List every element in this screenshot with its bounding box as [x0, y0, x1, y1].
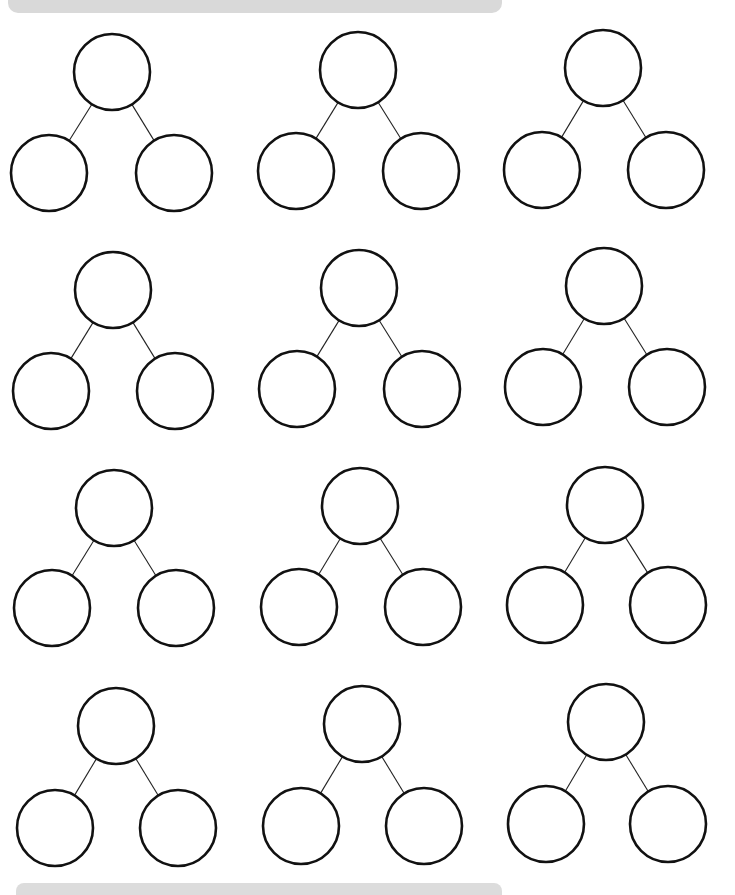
number-bond-diagram [261, 468, 461, 645]
whole-circle[interactable] [78, 688, 154, 764]
connector-line-left [317, 320, 339, 356]
number-bond-diagram [11, 34, 212, 211]
number-bond-diagram [259, 250, 460, 427]
part-circle-right[interactable] [629, 349, 705, 425]
connector-line-right [626, 754, 649, 791]
part-circle-left[interactable] [258, 133, 334, 209]
connector-line-left [321, 757, 343, 794]
connector-line-right [380, 538, 403, 575]
number-bond-diagram [13, 252, 213, 429]
connector-line-left [562, 101, 584, 138]
connector-line-right [136, 758, 159, 795]
whole-circle[interactable] [74, 34, 150, 110]
part-circle-left[interactable] [505, 349, 581, 425]
whole-circle[interactable] [321, 250, 397, 326]
part-circle-left[interactable] [261, 569, 337, 645]
part-circle-left[interactable] [507, 567, 583, 643]
part-circle-left[interactable] [504, 132, 580, 208]
part-circle-right[interactable] [628, 132, 704, 208]
part-circle-right[interactable] [136, 135, 212, 211]
connector-line-right [379, 320, 402, 357]
number-bond-diagram [14, 470, 214, 646]
part-circle-left[interactable] [11, 135, 87, 211]
part-circle-left[interactable] [14, 570, 90, 646]
number-bond-diagram [263, 686, 462, 864]
number-bond-diagram [505, 248, 705, 425]
connector-line-left [316, 102, 338, 138]
number-bond-diagram [508, 684, 706, 862]
connector-line-left [565, 755, 586, 791]
part-circle-right[interactable] [630, 567, 706, 643]
part-circle-left[interactable] [17, 790, 93, 866]
connector-line-right [625, 537, 647, 573]
part-circle-right[interactable] [137, 353, 213, 429]
connector-line-left [565, 538, 586, 573]
connector-line-left [69, 104, 92, 141]
connector-line-right [134, 540, 156, 575]
connector-line-left [563, 319, 585, 355]
number-bond-diagram [507, 467, 706, 643]
part-circle-right[interactable] [383, 133, 459, 209]
part-circle-left[interactable] [508, 786, 584, 862]
part-circle-right[interactable] [140, 790, 216, 866]
whole-circle[interactable] [566, 248, 642, 324]
bottom-footer-bar [16, 883, 502, 895]
part-circle-right[interactable] [630, 786, 706, 862]
part-circle-left[interactable] [259, 351, 335, 427]
whole-circle[interactable] [75, 252, 151, 328]
connector-line-right [382, 756, 405, 793]
whole-circle[interactable] [324, 686, 400, 762]
part-circle-right[interactable] [384, 351, 460, 427]
connector-line-right [623, 100, 646, 137]
connector-line-left [75, 759, 97, 796]
connector-line-left [71, 322, 93, 358]
part-circle-left[interactable] [13, 353, 89, 429]
number-bond-diagram [17, 688, 216, 866]
whole-circle[interactable] [320, 32, 396, 108]
whole-circle[interactable] [565, 30, 641, 106]
whole-circle[interactable] [322, 468, 398, 544]
connector-line-right [132, 104, 154, 140]
whole-circle[interactable] [567, 467, 643, 543]
whole-circle[interactable] [76, 470, 152, 546]
connector-line-left [319, 539, 341, 575]
number-bond-diagram [504, 30, 704, 208]
connector-line-left [72, 540, 94, 575]
part-circle-left[interactable] [263, 788, 339, 864]
connector-line-right [133, 322, 155, 358]
part-circle-right[interactable] [385, 569, 461, 645]
part-circle-right[interactable] [138, 570, 214, 646]
number-bond-diagram [258, 32, 459, 209]
connector-line-right [624, 318, 647, 355]
connector-line-right [378, 102, 401, 139]
part-circle-right[interactable] [386, 788, 462, 864]
whole-circle[interactable] [568, 684, 644, 760]
